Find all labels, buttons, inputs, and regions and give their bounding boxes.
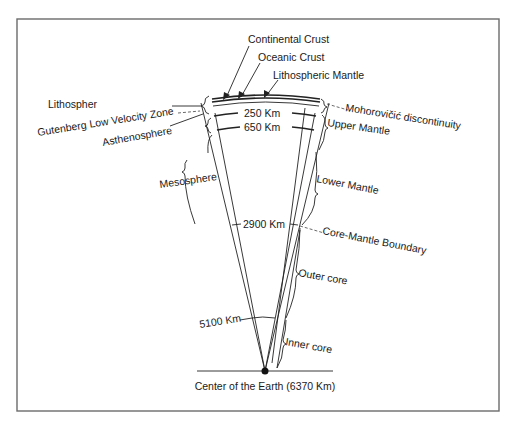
- crust-arc: [212, 98, 320, 102]
- label-inner-core: Inner core: [285, 335, 334, 355]
- label-lithospheric-mantle: Lithospheric Mantle: [273, 69, 364, 81]
- label-upper-mantle: Upper Mantle: [327, 116, 391, 137]
- label-earth-center: Center of the Earth (6370 Km): [195, 380, 336, 392]
- label-depth-2900: 2900 Km: [243, 218, 285, 230]
- earth-center-dot: [262, 368, 269, 375]
- diagram-frame: [17, 19, 499, 411]
- label-asthenosphere: Asthenosphere: [101, 124, 173, 148]
- label-core-mantle-boundary: Core-Mantle Boundary: [322, 224, 429, 256]
- label-lithosphere: Lithospher: [48, 98, 98, 110]
- left-brackets: [170, 96, 212, 224]
- label-mesosphere: Mesosphere: [159, 170, 218, 190]
- earth-layers-diagram: Continental Crust Oceanic Crust Lithosph…: [0, 0, 515, 425]
- label-depth-250: 250 Km: [244, 107, 280, 119]
- label-depth-650: 650 Km: [244, 121, 280, 133]
- earth-wedge: [201, 95, 329, 371]
- label-lower-mantle: Lower Mantle: [316, 172, 380, 196]
- label-outer-core: Outer core: [298, 266, 349, 286]
- label-continental-crust: Continental Crust: [248, 33, 329, 45]
- lithosphere-base-arc: [213, 102, 319, 106]
- inner-core-arc: [252, 317, 275, 318]
- label-oceanic-crust: Oceanic Crust: [258, 51, 325, 63]
- label-depth-5100: 5100 Km: [198, 312, 242, 330]
